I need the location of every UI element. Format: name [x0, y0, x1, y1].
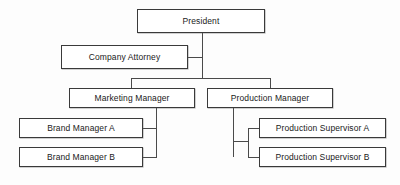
- connector-distribution-bar: [131, 78, 271, 79]
- node-marketing-manager-label: Marketing Manager: [91, 94, 174, 103]
- node-company-attorney-label: Company Attorney: [85, 53, 165, 62]
- node-company-attorney[interactable]: Company Attorney: [61, 45, 188, 69]
- node-production-supervisor-a-label: Production Supervisor A: [272, 124, 374, 133]
- node-brand-manager-b-label: Brand Manager B: [43, 153, 119, 162]
- connector-production-bus: [248, 128, 249, 157]
- node-president[interactable]: President: [137, 9, 265, 33]
- node-president-label: President: [179, 17, 224, 26]
- org-chart-diagram: President Company Attorney Marketing Man…: [0, 0, 400, 185]
- connector-brand-a: [143, 128, 157, 129]
- connector-production-stem: [233, 107, 234, 157]
- node-production-supervisor-b[interactable]: Production Supervisor B: [259, 147, 386, 167]
- node-production-supervisor-b-label: Production Supervisor B: [272, 153, 374, 162]
- connector-production-bus-link: [233, 141, 249, 142]
- node-production-manager-label: Production Manager: [227, 94, 313, 103]
- connector-company-attorney: [188, 57, 203, 58]
- node-marketing-manager[interactable]: Marketing Manager: [69, 88, 195, 108]
- node-brand-manager-a-label: Brand Manager A: [43, 124, 119, 133]
- connector-brand-b: [143, 157, 157, 158]
- node-brand-manager-b[interactable]: Brand Manager B: [19, 147, 143, 167]
- node-production-manager[interactable]: Production Manager: [207, 88, 333, 108]
- connector-president-stem: [202, 33, 203, 79]
- connector-marketing-stem: [156, 107, 157, 157]
- node-brand-manager-a[interactable]: Brand Manager A: [19, 118, 143, 138]
- node-production-supervisor-a[interactable]: Production Supervisor A: [259, 118, 386, 138]
